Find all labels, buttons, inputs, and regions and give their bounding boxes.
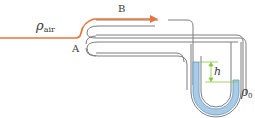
air-density-label: ρair <box>35 18 55 34</box>
stagnation-tube <box>87 26 246 94</box>
flow-arrow-icon <box>150 15 158 23</box>
point-a-label: A <box>71 43 80 54</box>
fluid-density-label: ρ0 <box>240 85 253 100</box>
height-label: h <box>214 65 221 78</box>
pitot-tube-diagram: ρair A B h ρ0 <box>0 0 255 118</box>
point-b-label: B <box>118 3 125 14</box>
